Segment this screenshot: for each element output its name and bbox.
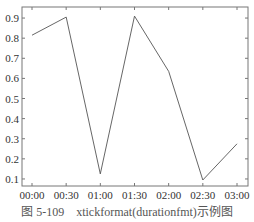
x-tick-label: 00:30 xyxy=(54,189,80,200)
y-tick-label: 0.9 xyxy=(5,12,19,24)
y-tick-label: 0.2 xyxy=(5,153,19,165)
x-tick-label: 01:00 xyxy=(88,189,114,200)
x-tick-label: 02:00 xyxy=(156,189,182,200)
y-tick-label: 0.4 xyxy=(5,113,19,125)
data-series-line xyxy=(32,16,237,180)
figure-caption-text: xtickformat(durationfmt)示例图 xyxy=(76,205,233,219)
y-tick-label: 0.6 xyxy=(5,72,19,84)
figure-caption: 图 5-109 xtickformat(durationfmt)示例图 xyxy=(0,202,254,220)
x-axis-ticks: 00:0000:3001:0001:3002:0002:3003:00 xyxy=(19,7,250,200)
x-tick-label: 02:30 xyxy=(190,189,216,200)
line-chart: 0.10.20.30.40.50.60.70.80.9 00:0000:3001… xyxy=(0,0,254,200)
x-tick-label: 03:00 xyxy=(224,189,250,200)
y-tick-label: 0.1 xyxy=(5,173,19,185)
y-tick-label: 0.3 xyxy=(5,133,19,145)
y-axis-ticks: 0.10.20.30.40.50.60.70.80.9 xyxy=(5,12,248,185)
y-tick-label: 0.8 xyxy=(5,32,19,44)
y-tick-label: 0.7 xyxy=(5,52,19,64)
x-tick-label: 01:30 xyxy=(122,189,148,200)
y-tick-label: 0.5 xyxy=(5,93,19,105)
x-tick-label: 00:00 xyxy=(19,189,45,200)
plot-frame xyxy=(22,7,248,186)
figure-number: 图 5-109 xyxy=(21,205,64,219)
